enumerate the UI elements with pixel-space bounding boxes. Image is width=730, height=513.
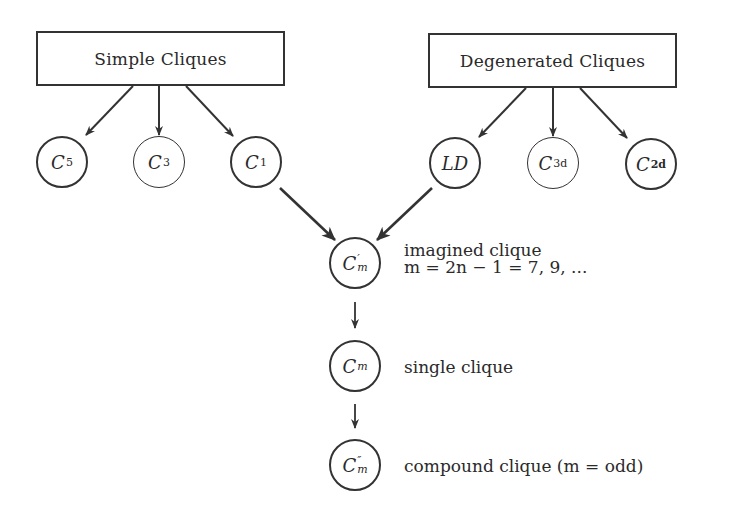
edge-degen-c2d bbox=[580, 88, 627, 138]
node-cm-prime-base: C bbox=[342, 253, 356, 274]
label-single-clique-text: single clique bbox=[404, 357, 513, 377]
simple-cliques-box: Simple Cliques bbox=[36, 31, 285, 86]
node-c2d-base: C bbox=[636, 154, 650, 175]
edge-c1-cmprime bbox=[280, 188, 335, 240]
node-c1-sub: 1 bbox=[260, 156, 267, 169]
node-c5-base: C bbox=[51, 152, 65, 173]
node-cm-dprime-scripts: ″m bbox=[357, 456, 367, 474]
node-c2d-sub: 2d bbox=[651, 158, 666, 171]
node-c1: C1 bbox=[230, 136, 282, 188]
label-compound-clique-text: compound clique (m = odd) bbox=[404, 456, 643, 476]
node-cm-dprime: C″m bbox=[329, 439, 381, 491]
node-cm-prime: C′m bbox=[329, 237, 381, 289]
label-compound-clique: compound clique (m = odd) bbox=[404, 458, 643, 475]
node-cm-sub: m bbox=[357, 360, 367, 373]
edge-degen-ld bbox=[479, 88, 526, 137]
label-imagined-clique-formula: m = 2n − 1 = 7, 9, ... bbox=[404, 259, 587, 276]
node-cm-prime-sub: m bbox=[357, 263, 367, 272]
node-c3d-base: C bbox=[539, 153, 553, 174]
node-c3: C3 bbox=[133, 136, 185, 188]
node-cm: Cm bbox=[329, 340, 381, 392]
node-cm-dprime-base: C bbox=[342, 455, 356, 476]
node-ld: LD bbox=[429, 137, 481, 189]
node-c1-base: C bbox=[245, 152, 259, 173]
label-imagined-clique: imagined clique m = 2n − 1 = 7, 9, ... bbox=[404, 242, 587, 276]
node-ld-base: LD bbox=[442, 153, 468, 174]
label-single-clique: single clique bbox=[404, 359, 513, 376]
degenerated-cliques-box: Degenerated Cliques bbox=[428, 33, 677, 88]
node-c3-base: C bbox=[148, 152, 162, 173]
edge-simple-c5 bbox=[86, 86, 133, 135]
node-c5: C5 bbox=[36, 136, 88, 188]
node-c3d: C3d bbox=[527, 137, 579, 189]
edge-ld-cmprime bbox=[377, 188, 432, 240]
node-c5-sub: 5 bbox=[66, 156, 73, 169]
node-c2d: C2d bbox=[625, 138, 677, 190]
node-cm-dprime-sub: m bbox=[357, 465, 367, 474]
node-c3d-sub: 3d bbox=[553, 157, 567, 170]
node-cm-prime-scripts: ′m bbox=[357, 254, 367, 272]
degenerated-cliques-label: Degenerated Cliques bbox=[460, 51, 645, 71]
edge-simple-c1 bbox=[186, 86, 233, 136]
simple-cliques-label: Simple Cliques bbox=[94, 49, 226, 69]
node-cm-base: C bbox=[342, 356, 356, 377]
node-c3-sub: 3 bbox=[163, 156, 170, 169]
